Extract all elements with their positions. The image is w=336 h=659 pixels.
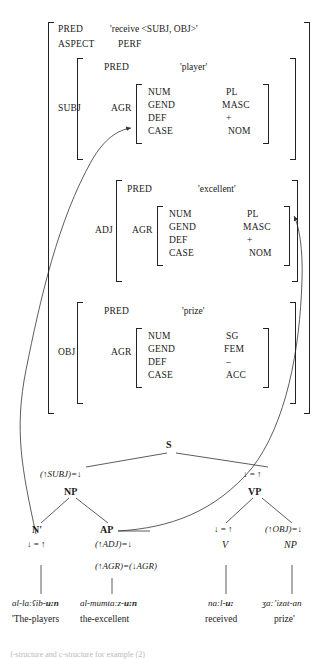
word-form-2: al-mumta:z-u:n	[80, 598, 137, 608]
word-form-1: al-la:ʕib-u:n	[12, 598, 59, 608]
adj-agr-def-value: +	[247, 236, 253, 246]
fstruct-pred-attr: PRED	[58, 25, 83, 35]
word-gloss-4: prize'	[274, 614, 295, 624]
tree-annotation-np-subj: (↑SUBJ)=↓	[40, 469, 82, 479]
word-gloss-3: received	[205, 614, 237, 624]
word-gloss-2: the-excellent	[80, 614, 129, 624]
fstruct-aspect-value: PERF	[118, 40, 142, 50]
obj-label: OBJ	[58, 348, 76, 358]
obj-agr-gend-value: FEM	[224, 345, 244, 355]
obj-pred-value: 'prize'	[182, 307, 204, 317]
obj-agr-label: AGR	[111, 348, 132, 358]
obj-right-bracket	[290, 302, 296, 404]
tree-node-s: S	[166, 439, 172, 450]
word-form-1-suffix: u:n	[46, 598, 59, 608]
phi-arrow-adj	[118, 216, 302, 531]
tree-annotation-ap-agr: (↑AGR)=(↓AGR)	[95, 561, 157, 571]
fstruct-aspect-attr: ASPECT	[58, 40, 95, 50]
adj-pred-attr: PRED	[127, 185, 152, 195]
tree-node-np-subj: NP	[64, 486, 77, 497]
adj-agr-left-bracket	[157, 206, 163, 266]
subj-pred-value: 'player'	[180, 63, 207, 73]
figure-caption: f-structure and c-structure for example …	[10, 650, 145, 659]
obj-left-bracket	[77, 302, 83, 404]
adj-agr-def-attr: DEF	[169, 236, 188, 246]
fstruct-outer-left-bracket	[48, 22, 54, 414]
adj-agr-num-value: PL	[247, 210, 259, 220]
tree-annotation-np-obj: (↑OBJ)=↓	[265, 524, 302, 534]
obj-agr-case-attr: CASE	[148, 371, 173, 381]
obj-agr-num-attr: NUM	[148, 332, 171, 342]
adj-agr-case-attr: CASE	[169, 249, 194, 259]
fstruct-pred-value: 'receive <SUBJ, OBJ>'	[110, 25, 198, 35]
adj-agr-gend-attr: GEND	[169, 223, 196, 233]
subj-agr-gend-attr: GEND	[148, 101, 175, 111]
obj-agr-num-value: SG	[226, 332, 239, 342]
obj-agr-def-attr: DEF	[148, 358, 167, 368]
tree-node-np-obj: NP	[284, 539, 297, 550]
word-gloss-1: 'The-players	[12, 614, 59, 624]
subj-agr-def-attr: DEF	[148, 114, 167, 124]
subj-right-bracket	[290, 58, 296, 160]
word-form-3-stem: na:l-	[208, 598, 226, 608]
word-form-3: na:l-u:	[208, 598, 234, 608]
obj-agr-left-bracket	[136, 328, 142, 388]
word-form-3-suffix: u:	[226, 598, 234, 608]
tree-node-v: V	[222, 539, 228, 550]
tree-node-vp: VP	[248, 486, 261, 497]
obj-agr-def-value: –	[226, 358, 231, 368]
adj-pred-value: 'excellent'	[198, 185, 236, 195]
tree-annotation-ap-adj: (↑ADJ)=↓	[95, 539, 132, 549]
adj-agr-gend-value: MASC	[243, 223, 271, 233]
subj-agr-case-attr: CASE	[148, 127, 173, 137]
word-form-4: ʒa:ʼizat-an	[262, 598, 302, 608]
adj-left-bracket	[116, 180, 122, 282]
adj-agr-case-value: NOM	[249, 249, 272, 259]
subj-agr-num-value: PL	[226, 88, 238, 98]
word-form-4-stem: ʒa:ʼizat-an	[262, 598, 302, 608]
fstruct-outer-right-bracket	[304, 22, 310, 414]
tree-node-ap: AP	[100, 524, 113, 535]
subj-agr-def-value: +	[226, 114, 232, 124]
subj-agr-gend-value: MASC	[222, 101, 250, 111]
subj-agr-label: AGR	[111, 104, 132, 114]
tree-annotation-nbar: ↓ = ↑	[27, 539, 46, 549]
adj-right-bracket	[292, 180, 298, 282]
subj-agr-case-value: NOM	[228, 127, 251, 137]
tree-annotation-v: ↓ = ↑	[214, 524, 233, 534]
adj-label: ADJ	[95, 226, 113, 236]
adj-agr-num-attr: NUM	[169, 210, 192, 220]
subj-agr-right-bracket	[263, 84, 269, 144]
adj-agr-label: AGR	[132, 226, 153, 236]
word-form-2-suffix: u:n	[124, 598, 137, 608]
adj-agr-right-bracket	[284, 206, 290, 266]
tree-annotation-vp: ↓ = ↑	[243, 469, 262, 479]
obj-agr-gend-attr: GEND	[148, 345, 175, 355]
subj-pred-attr: PRED	[104, 63, 129, 73]
obj-agr-right-bracket	[263, 328, 269, 388]
subj-left-bracket	[77, 58, 83, 160]
obj-agr-case-value: ACC	[226, 371, 246, 381]
word-form-2-stem: al-mumta:z-	[80, 598, 124, 608]
subj-agr-num-attr: NUM	[148, 88, 171, 98]
obj-pred-attr: PRED	[104, 307, 129, 317]
subj-agr-left-bracket	[136, 84, 142, 144]
word-form-1-stem: al-la:ʕib-	[12, 598, 46, 608]
tree-node-nbar: N'	[32, 524, 42, 535]
